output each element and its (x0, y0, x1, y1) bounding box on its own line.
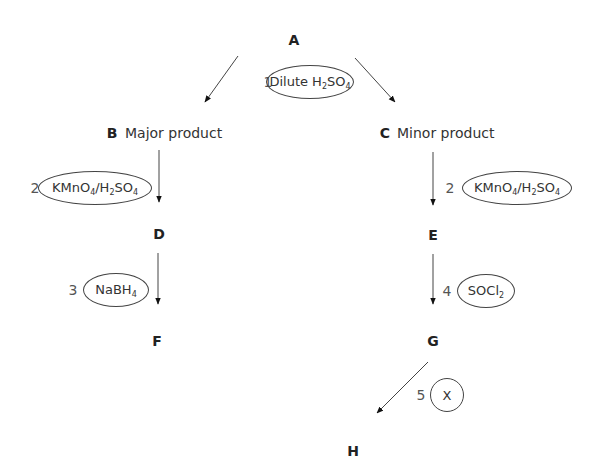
compound-b: B (107, 125, 118, 141)
compound-f: F (152, 333, 162, 349)
compound-c: C (380, 125, 390, 141)
step-2-right-reagent: KMnO4/H2SO4 (474, 180, 560, 197)
step-2-left-reagent: KMnO4/H2SO4 (52, 180, 138, 197)
compound-d: D (153, 226, 165, 242)
step-2-right-reagent-ellipse: KMnO4/H2SO4 (462, 171, 572, 205)
step-5-reagent-circle: X (430, 378, 464, 412)
arrow-a-to-b (205, 56, 238, 102)
step-3-reagent: NaBH4 (95, 282, 136, 299)
step-2-right-number: 2 (446, 180, 455, 196)
step-4-reagent: SOCl2 (468, 283, 504, 300)
step-1-reagent: Dilute H2SO4 (269, 74, 350, 91)
step-3-number: 3 (69, 282, 78, 298)
step-2-left-reagent-ellipse: KMnO4/H2SO4 (38, 171, 152, 205)
compound-b-description: Major product (125, 125, 222, 141)
compound-h: H (347, 443, 359, 459)
compound-e: E (428, 227, 438, 243)
compound-a: A (289, 32, 300, 48)
compound-c-description: Minor product (397, 125, 494, 141)
step-5-number: 5 (417, 387, 426, 403)
step-4-number: 4 (443, 283, 452, 299)
compound-g: G (427, 333, 439, 349)
step-3-reagent-ellipse: NaBH4 (83, 273, 149, 307)
step-1-reagent-ellipse: Dilute H2SO4 (266, 65, 354, 99)
step-4-reagent-ellipse: SOCl2 (457, 274, 515, 308)
step-5-reagent: X (443, 388, 452, 403)
arrow-a-to-c (355, 58, 395, 102)
